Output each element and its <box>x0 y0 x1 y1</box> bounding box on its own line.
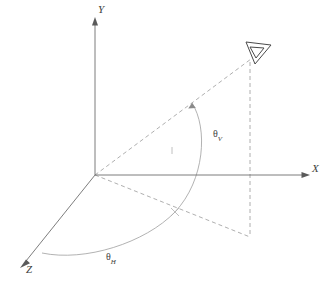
y-axis-label: Y <box>98 4 104 15</box>
ground-projection-dashed-line <box>95 175 250 237</box>
y-axis-arrowhead <box>92 17 98 26</box>
theta-horizontal-subscript: H <box>111 258 116 266</box>
theta-h-arc <box>42 212 175 255</box>
axes-group <box>20 17 310 268</box>
theta-vertical-subscript: V <box>218 135 222 143</box>
z-axis-label: Z <box>26 264 32 275</box>
x-axis-arrowhead <box>302 172 311 178</box>
eye-triangle-icon <box>246 42 271 64</box>
theta-v-arc-arrowhead <box>188 103 196 109</box>
theta-vertical-label: θV <box>213 129 222 142</box>
angle-arcs-group <box>42 103 202 255</box>
theta-horizontal-label: θH <box>106 252 116 265</box>
diagram-vector-layer <box>0 0 329 281</box>
theta-v-arc <box>175 103 202 212</box>
x-axis-label: X <box>312 163 319 174</box>
diagram-canvas: Y X Z θV θH <box>0 0 329 281</box>
sight-ray-dashed-line <box>95 59 251 175</box>
arc-intersection-marker <box>171 208 179 216</box>
z-axis-line <box>26 175 95 261</box>
